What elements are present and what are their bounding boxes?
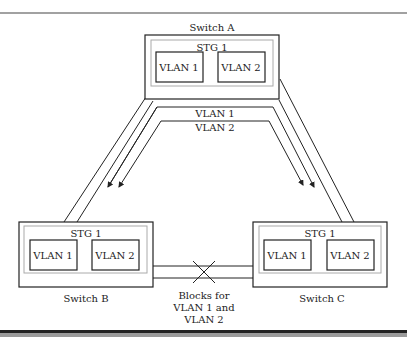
bottom-rule [0,330,407,333]
switch-a-vlan1: VLAN 1 [158,62,198,73]
switch-c-vlan2: VLAN 2 [329,250,369,261]
link-b-c [153,266,253,278]
flow-label-vlan2: VLAN 2 [194,122,234,133]
switch-b-vlan1: VLAN 1 [32,250,72,261]
block-x-icon [193,261,215,283]
switch-b-stg: STG 1 [70,228,101,239]
block-label-line1: Blocks for [178,290,229,301]
switch-b-label: Switch B [63,293,108,304]
switch-b-vlan2: VLAN 2 [94,250,134,261]
switch-b: STG 1 VLAN 1 VLAN 2 Switch B [19,222,153,304]
switch-c-label: Switch C [299,293,345,304]
switch-a-stg: STG 1 [196,42,227,53]
stp-diagram: VLAN 1 VLAN 2 Switch A STG 1 VLAN 1 VLAN… [0,0,407,337]
flow-label-vlan1: VLAN 1 [194,108,234,119]
switch-a-label: Switch A [189,22,235,33]
footer-band [0,333,407,337]
switch-c-stg: STG 1 [304,228,335,239]
link-a-b [64,97,153,222]
switch-a-vlan2: VLAN 2 [220,62,260,73]
switch-a: Switch A STG 1 VLAN 1 VLAN 2 [145,22,279,99]
switch-c: STG 1 VLAN 1 VLAN 2 Switch C [253,222,387,304]
block-label-line2: VLAN 1 and [172,302,235,313]
link-a-c [279,79,354,222]
switch-c-vlan1: VLAN 1 [266,250,306,261]
block-label-line3: VLAN 2 [183,314,223,325]
